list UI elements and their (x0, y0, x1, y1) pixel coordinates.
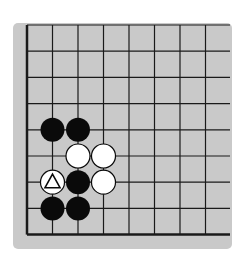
white-stone (66, 144, 90, 168)
black-stone (41, 118, 65, 142)
white-stone (92, 170, 116, 194)
black-stone (66, 170, 90, 194)
white-stone (92, 144, 116, 168)
black-stone (66, 196, 90, 220)
black-stone (66, 118, 90, 142)
go-board (0, 0, 244, 261)
black-stone (41, 196, 65, 220)
